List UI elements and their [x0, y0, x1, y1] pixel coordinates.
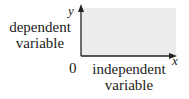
x-axis-variable: x: [172, 53, 178, 69]
y-axis-arrow-icon: [78, 4, 84, 12]
dependent-variable-label: dependent variable: [2, 19, 78, 51]
origin-label: 0: [69, 60, 77, 77]
independent-variable-label: independent variable: [88, 61, 170, 93]
independent-label-line1: independent: [88, 61, 170, 77]
y-axis-variable: y: [68, 3, 74, 19]
dependent-label-line1: dependent: [2, 19, 78, 35]
dependent-label-line2: variable: [2, 35, 78, 51]
independent-label-line2: variable: [88, 77, 170, 93]
